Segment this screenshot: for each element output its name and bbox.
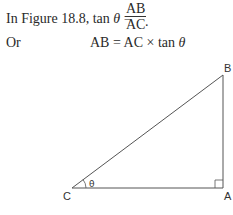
right-angle-marker bbox=[215, 180, 223, 188]
vertex-label-b: B bbox=[224, 62, 231, 74]
angle-theta-label: θ bbox=[89, 179, 95, 189]
vertex-label-a: A bbox=[224, 190, 232, 202]
right-triangle-figure: θ B C A bbox=[0, 0, 233, 215]
vertex-label-c: C bbox=[63, 190, 71, 202]
triangle bbox=[72, 75, 223, 188]
angle-arc bbox=[83, 180, 86, 189]
